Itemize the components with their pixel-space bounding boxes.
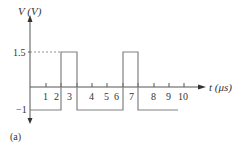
- x-tick-marks: [46, 83, 184, 87]
- x-tick-labels: 1 2 3 4 5 6 7 8 9 10: [43, 91, 188, 102]
- svg-text:10: 10: [178, 91, 188, 102]
- y-tick-label-1.5: 1.5: [13, 47, 26, 58]
- svg-text:2: 2: [54, 91, 59, 102]
- svg-text:9: 9: [166, 91, 171, 102]
- y-axis-down-arrow-icon: [28, 118, 33, 124]
- svg-text:1: 1: [43, 91, 48, 102]
- svg-text:7: 7: [129, 91, 134, 102]
- svg-text:5: 5: [104, 91, 109, 102]
- x-axis-label: t (μs): [209, 81, 232, 94]
- x-axis-arrow-icon: [198, 85, 206, 90]
- waveform-figure: V (V) 1.5 −1 t (μs) 1 2 3 4 5 6 7 8 9 10…: [0, 0, 242, 151]
- svg-text:3: 3: [67, 91, 72, 102]
- svg-text:4: 4: [89, 91, 94, 102]
- y-axis-label: V (V): [18, 5, 42, 18]
- y-tick-label-neg1: −1: [16, 104, 27, 115]
- svg-text:8: 8: [151, 91, 156, 102]
- svg-text:6: 6: [114, 91, 119, 102]
- figure-caption-label: (a): [10, 131, 21, 143]
